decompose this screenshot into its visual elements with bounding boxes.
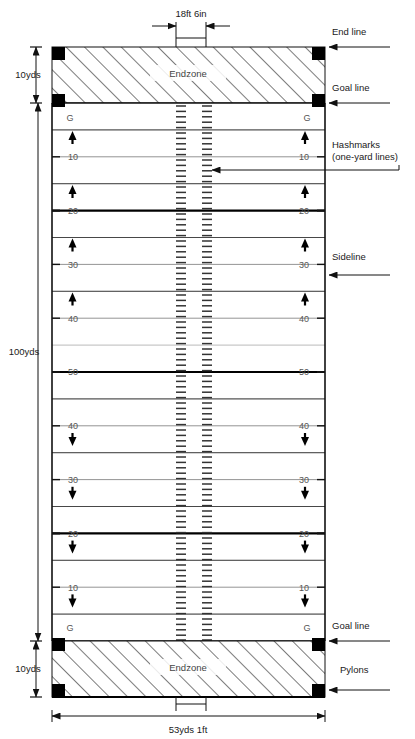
- yard-label-20-bot-right: 20: [299, 529, 309, 539]
- yard-label-40-top-left: 40: [68, 314, 78, 324]
- endzone-bottom: Endzone: [52, 641, 325, 697]
- yard-label-30-bot-left: 30: [68, 475, 78, 485]
- yard-label-50-left: 50: [68, 367, 78, 377]
- pylon-icon: [312, 94, 325, 107]
- football-field-diagram: Endzone: [0, 0, 415, 739]
- endzone-bottom-depth-label: 10yds: [15, 663, 41, 674]
- yard-label-30-top-right: 30: [299, 260, 309, 270]
- pylon-icon: [312, 684, 325, 697]
- yard-label-20-top-left: 20: [68, 206, 78, 216]
- field-length-label: 100yds: [9, 346, 40, 357]
- yard-label-30-bot-right: 30: [299, 475, 309, 485]
- diagram-canvas: Endzone: [0, 0, 415, 739]
- endzone-bottom-label: Endzone: [169, 662, 207, 673]
- playing-field: [52, 103, 325, 641]
- yard-label-G-top-right: G: [303, 113, 310, 123]
- pylons-label: Pylons: [340, 664, 369, 675]
- pylon-icon: [312, 638, 325, 651]
- sideline-label: Sideline: [332, 251, 366, 262]
- yard-label-40-bot-left: 40: [68, 421, 78, 431]
- endzone-top: Endzone: [52, 47, 325, 103]
- end-line-label: End line: [332, 26, 366, 37]
- yard-label-30-top-left: 30: [68, 260, 78, 270]
- pylon-icon: [52, 638, 65, 651]
- field-width-label: 53yds 1ft: [169, 724, 208, 735]
- pylon-icon: [312, 47, 325, 60]
- pylon-icon: [52, 684, 65, 697]
- pylon-icon: [52, 94, 65, 107]
- yard-label-G-bot-left: G: [66, 623, 73, 633]
- endzone-top-depth-label: 10yds: [15, 69, 41, 80]
- yard-label-G-top-left: G: [66, 113, 73, 123]
- goal-line-top-label: Goal line: [332, 82, 370, 93]
- goal-line-bottom-label: Goal line: [332, 620, 370, 631]
- yard-label-40-top-right: 40: [299, 314, 309, 324]
- yard-label-50-right: 50: [299, 367, 309, 377]
- yard-label-20-bot-left: 20: [68, 529, 78, 539]
- pylon-icon: [52, 47, 65, 60]
- yard-label-10-bot-left: 10: [68, 583, 78, 593]
- hash-gap-label: 18ft 6in: [175, 8, 206, 19]
- yard-label-10-bot-right: 10: [299, 583, 309, 593]
- yard-label-10-top-left: 10: [68, 152, 78, 162]
- yard-label-40-bot-right: 40: [299, 421, 309, 431]
- hashmarks-sublabel: (one-yard lines): [332, 151, 398, 162]
- hashmarks-label: Hashmarks: [332, 139, 380, 150]
- endzone-top-label: Endzone: [169, 68, 207, 79]
- yard-label-20-top-right: 20: [299, 206, 309, 216]
- yard-label-10-top-right: 10: [299, 152, 309, 162]
- yard-label-G-bot-right: G: [303, 623, 310, 633]
